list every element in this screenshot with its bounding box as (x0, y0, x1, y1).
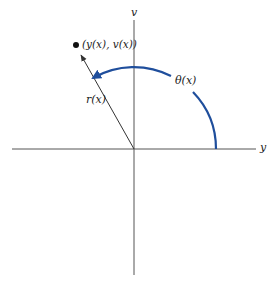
horizontal-axis-label: y (260, 142, 266, 153)
angle-label: θ(x) (175, 75, 196, 86)
angle-arc-upper (93, 67, 171, 78)
radius-label: r(x) (86, 94, 106, 105)
diagram-canvas (0, 0, 274, 287)
point-label: (y(x), v(x)) (82, 39, 137, 50)
vertical-axis-label: v (131, 7, 137, 18)
point-dot (73, 42, 79, 48)
angle-arc-lower (193, 92, 216, 149)
